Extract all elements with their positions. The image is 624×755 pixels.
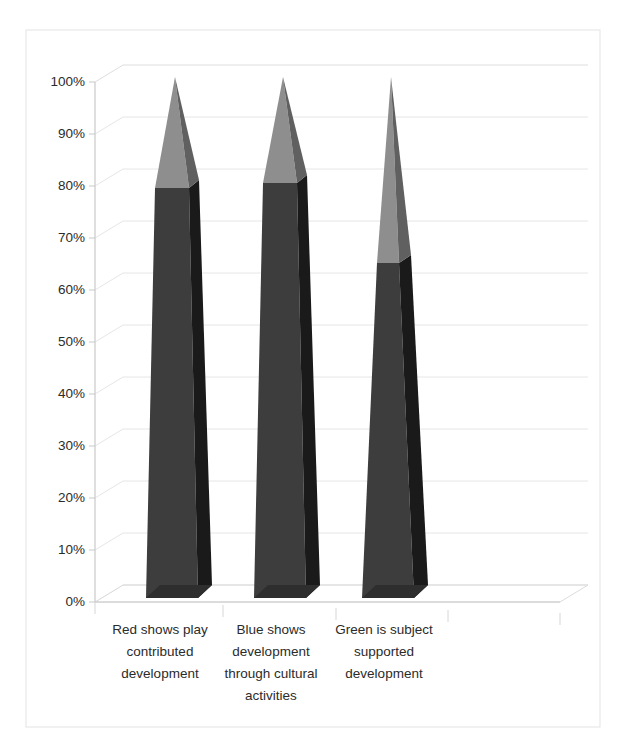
category-1-line-1: Red shows play — [112, 622, 208, 637]
y-tick-label-60: 60% — [58, 282, 85, 297]
y-tick-label-40: 40% — [58, 386, 85, 401]
category-2-line-1: Blue shows — [236, 622, 305, 637]
category-3-line-1: Green is subject — [335, 622, 433, 637]
y-tick-label-50: 50% — [58, 334, 85, 349]
category-2-line-3: through cultural — [224, 666, 317, 681]
category-1-line-3: development — [121, 666, 199, 681]
y-tick-label-90: 90% — [58, 126, 85, 141]
y-tick-label-80: 80% — [58, 178, 85, 193]
y-tick-label-100: 100% — [50, 74, 85, 89]
y-tick-label-10: 10% — [58, 542, 85, 557]
cone-2-lower-front[interactable] — [254, 183, 306, 598]
category-1-line-2: contributed — [127, 644, 194, 659]
stacked-cone-chart: 100% 90% 80% 70% 60% 50% 40% 30% 20% 10%… — [0, 0, 624, 755]
y-tick-label-0: 0% — [65, 594, 85, 609]
cone-1-lower-front[interactable] — [146, 188, 198, 598]
category-2-line-4: activities — [245, 688, 297, 703]
chart-container: 100% 90% 80% 70% 60% 50% 40% 30% 20% 10%… — [0, 0, 624, 755]
category-3-line-3: development — [345, 666, 423, 681]
y-tick-label-30: 30% — [58, 438, 85, 453]
y-tick-label-70: 70% — [58, 230, 85, 245]
y-tick-label-20: 20% — [58, 490, 85, 505]
category-2-line-2: development — [232, 644, 310, 659]
category-3-line-2: supported — [354, 644, 414, 659]
